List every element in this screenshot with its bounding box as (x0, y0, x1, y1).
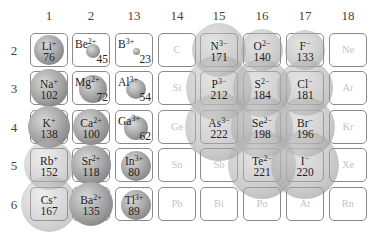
ion-symbol: P3− (200, 76, 238, 90)
element-symbol: Sb (200, 159, 238, 170)
ion-charge: 2+ (92, 154, 101, 163)
ion-radius: 198 (243, 128, 281, 140)
ion-charge: 3+ (135, 193, 144, 202)
ion-symbol: Cs+ (30, 192, 68, 206)
ion-symbol: Ba2+ (72, 192, 110, 206)
ion-symbol-text: B (118, 38, 126, 50)
ion-radius: 89 (115, 205, 153, 217)
ion-radius: 100 (72, 128, 110, 140)
element-symbol: Ne (329, 44, 367, 55)
element-symbol: Sn (158, 159, 196, 170)
ion-charge: 2− (262, 39, 271, 48)
ion-symbol: Cl− (286, 76, 324, 90)
ion-symbol: N3− (200, 38, 238, 52)
column-header: 16 (242, 8, 282, 24)
element-symbol: Po (243, 198, 281, 209)
ion-symbol: Sr2+ (72, 153, 110, 167)
ion-radius: 72 (86, 91, 108, 103)
element-symbol: Ge (158, 121, 196, 132)
ion-radius: 184 (243, 89, 281, 101)
ion-radius: 45 (86, 53, 108, 65)
ion-charge: + (53, 77, 58, 86)
ion-radius: 133 (286, 51, 324, 63)
ion-symbol: B3+ (118, 36, 134, 50)
ion-radius: 118 (72, 166, 110, 178)
element-symbol: Pb (158, 198, 196, 209)
ion-symbol: S2− (243, 76, 281, 90)
element-symbol: Si (158, 82, 196, 93)
ion-symbol: Br− (286, 115, 324, 129)
ion-radius: 220 (286, 166, 324, 178)
element-symbol: Kr (329, 121, 367, 132)
ion-radius: 138 (30, 128, 68, 140)
row-header: 4 (4, 120, 24, 136)
ion-charge: 3+ (131, 114, 140, 123)
ion-radius: 62 (129, 130, 151, 142)
column-header: 18 (328, 8, 368, 24)
ion-radius: 212 (200, 89, 238, 101)
ion-radius: 181 (286, 89, 324, 101)
ion-charge: − (306, 39, 311, 48)
column-header: 14 (157, 8, 197, 24)
ion-symbol: In3+ (115, 153, 153, 167)
ion-charge: 3+ (130, 75, 139, 84)
ion-charge: 3+ (126, 37, 135, 46)
ion-charge: 2− (263, 154, 272, 163)
ion-charge: 3− (221, 116, 230, 125)
ion-symbol: Be2+ (75, 36, 96, 50)
ion-charge: 3− (218, 77, 227, 86)
ion-radius: 80 (115, 166, 153, 178)
row-header: 2 (4, 43, 24, 59)
ion-symbol: Li+ (30, 38, 68, 52)
ion-charge: 2+ (93, 193, 102, 202)
ion-symbol: Na+ (30, 76, 68, 90)
element-symbol: At (286, 198, 324, 209)
ion-symbol: Ca2+ (72, 115, 110, 129)
ion-radius: 167 (30, 205, 68, 217)
element-symbol: C (158, 44, 196, 55)
ion-symbol: Te2− (243, 153, 281, 167)
column-header: 1 (29, 8, 69, 24)
row-header: 6 (4, 197, 24, 213)
ion-symbol: Ga3+ (118, 113, 140, 127)
element-symbol: Xe (329, 159, 367, 170)
ion-charge: 2+ (93, 116, 102, 125)
ion-charge: − (308, 116, 313, 125)
ion-charge: − (305, 154, 310, 163)
ion-radius: 135 (72, 205, 110, 217)
ion-symbol: Al3+ (118, 74, 138, 88)
ion-charge: − (308, 77, 313, 86)
ion-radius: 171 (200, 51, 238, 63)
ion-charge: + (52, 39, 57, 48)
ion-symbol-text: Be (75, 38, 88, 50)
ion-charge: + (53, 154, 58, 163)
ion-charge: 2+ (88, 37, 97, 46)
ion-charge: 2− (261, 77, 270, 86)
ion-symbol-text: Al (118, 76, 130, 88)
column-header: 17 (285, 8, 325, 24)
ion-symbol: F− (286, 38, 324, 52)
ion-charge: 2− (263, 116, 272, 125)
ion-radius: 76 (30, 51, 68, 63)
column-header: 13 (114, 8, 154, 24)
row-header: 5 (4, 158, 24, 174)
ion-radius: 152 (30, 166, 68, 178)
row-header: 3 (4, 81, 24, 97)
column-header: 2 (71, 8, 111, 24)
ion-charge: 2+ (91, 75, 100, 84)
ion-radius: 196 (286, 128, 324, 140)
ion-radius: 140 (243, 51, 281, 63)
ion-charge: 3− (219, 39, 228, 48)
element-symbol: Rn (329, 198, 367, 209)
ion-radius: 222 (200, 128, 238, 140)
ion-symbol: K+ (30, 115, 68, 129)
ion-radius: 102 (30, 89, 68, 101)
ion-symbol: Rb+ (30, 153, 68, 167)
ion-symbol: I− (286, 153, 324, 167)
ion-symbol: O2− (243, 38, 281, 52)
ion-symbol: As3− (200, 115, 238, 129)
ion-symbol: Tl3+ (115, 192, 153, 206)
ion-symbol: Se2− (243, 115, 281, 129)
ion-charge: + (53, 193, 58, 202)
ion-symbol-text: Ga (118, 115, 131, 127)
